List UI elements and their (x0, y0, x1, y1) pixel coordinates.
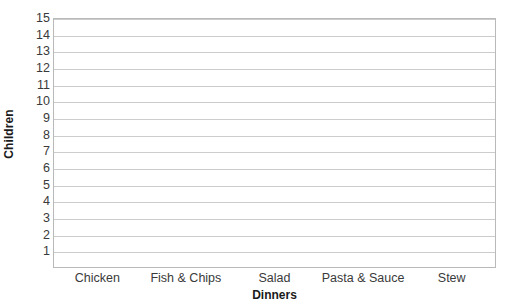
x-axis-tick-label: Salad (259, 270, 291, 286)
gridline (54, 36, 495, 37)
y-axis-tick-label: 3 (22, 212, 50, 224)
y-axis-title: Children (0, 0, 18, 268)
gridline (54, 219, 495, 220)
x-axis-tick-labels: ChickenFish & ChipsSaladPasta & SauceSte… (53, 270, 496, 286)
gridlines (54, 19, 495, 267)
gridline (54, 252, 495, 253)
gridline (54, 86, 495, 87)
gridline (54, 19, 495, 20)
gridline (54, 69, 495, 70)
y-axis-tick-label: 9 (22, 112, 50, 124)
y-axis-tick-label: 4 (22, 195, 50, 207)
y-axis-tick-label: 13 (22, 45, 50, 57)
plot-area (53, 18, 496, 268)
x-axis-title: Dinners (53, 288, 496, 302)
x-axis-tick-label: Fish & Chips (150, 270, 221, 286)
y-axis-tick-label: 12 (22, 62, 50, 74)
gridline (54, 186, 495, 187)
y-axis-tick-label: 5 (22, 179, 50, 191)
gridline (54, 236, 495, 237)
y-axis-tick-label: 14 (22, 29, 50, 41)
gridline (54, 119, 495, 120)
y-axis-tick-label: 10 (22, 95, 50, 107)
gridline (54, 152, 495, 153)
y-axis-tick-label: 8 (22, 129, 50, 141)
bar-chart: Children 151413121110987654321 ChickenFi… (0, 0, 512, 308)
y-axis-tick-label: 6 (22, 162, 50, 174)
gridline (54, 169, 495, 170)
y-axis-tick-labels: 151413121110987654321 (22, 0, 50, 308)
gridline (54, 136, 495, 137)
y-axis-tick-label: 11 (22, 79, 50, 91)
y-axis-tick-label: 2 (22, 229, 50, 241)
x-axis-tick-label: Stew (438, 270, 466, 286)
y-axis-tick-label: 7 (22, 145, 50, 157)
gridline (54, 52, 495, 53)
y-axis-tick-label: 1 (22, 245, 50, 257)
x-axis-tick-label: Chicken (75, 270, 120, 286)
y-axis-tick-label: 15 (22, 12, 50, 24)
x-axis-tick-label: Pasta & Sauce (322, 270, 405, 286)
gridline (54, 202, 495, 203)
gridline (54, 102, 495, 103)
y-axis-title-label: Children (2, 109, 16, 158)
